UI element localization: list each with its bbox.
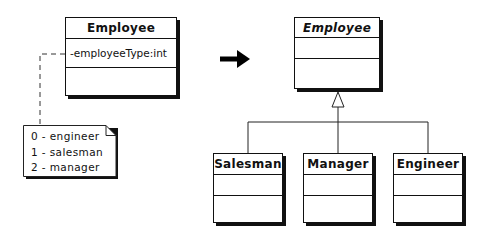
- class-name: Manager: [304, 154, 372, 175]
- class-name: Employee: [66, 18, 176, 39]
- class-name: Employee: [295, 18, 379, 38]
- inheritance-triangle-icon: [332, 92, 344, 107]
- type-code-note[interactable]: 0 - engineer 1 - salesman 2 - manager: [23, 125, 119, 180]
- class-name: Engineer: [394, 154, 462, 175]
- right-arrow-icon: [220, 50, 250, 68]
- engineer-class[interactable]: Engineer: [393, 153, 463, 223]
- methods-section: [295, 59, 379, 88]
- manager-class[interactable]: Manager: [303, 153, 373, 223]
- methods-section: [214, 196, 282, 222]
- salesman-class[interactable]: Salesman: [213, 153, 283, 223]
- attributes-section: [304, 175, 372, 196]
- attributes-section: [295, 38, 379, 59]
- generalization-connector: [248, 92, 428, 153]
- note-text: 0 - engineer 1 - salesman 2 - manager: [31, 129, 103, 176]
- note-line-salesman: 1 - salesman: [31, 145, 103, 161]
- note-line-manager: 2 - manager: [31, 160, 103, 176]
- note-line-engineer: 0 - engineer: [31, 129, 103, 145]
- methods-section: [304, 196, 372, 222]
- methods-section: [66, 68, 176, 95]
- employee-class-before[interactable]: Employee -employeeType:int: [65, 17, 177, 96]
- attributes-section: [214, 175, 282, 196]
- attributes-section: -employeeType:int: [66, 39, 176, 68]
- attributes-section: [394, 175, 462, 196]
- note-anchor-dashed-line: [40, 54, 65, 125]
- attribute-employee-type: -employeeType:int: [70, 47, 167, 59]
- methods-section: [394, 196, 462, 222]
- class-name: Salesman: [214, 154, 282, 175]
- employee-superclass-after[interactable]: Employee: [294, 17, 380, 89]
